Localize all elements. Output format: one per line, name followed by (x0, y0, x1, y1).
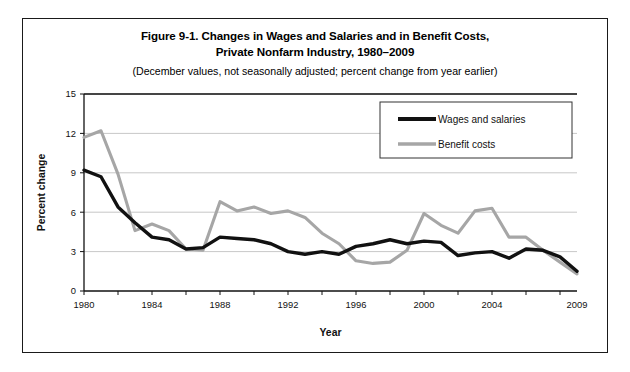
chart-legend: Wages and salariesBenefit costs (380, 102, 572, 158)
figure-frame: Figure 9-1. Changes in Wages and Salarie… (22, 18, 608, 353)
x-tick-label-1988: 1988 (210, 299, 231, 310)
x-tick-label-2000: 2000 (414, 299, 435, 310)
y-tick-label-9: 9 (71, 167, 76, 178)
x-tick-label-1992: 1992 (278, 299, 299, 310)
x-tick-label-2004: 2004 (482, 299, 503, 310)
x-tick-label-1984: 1984 (142, 299, 163, 310)
legend-label-0: Wages and salaries (438, 114, 525, 125)
x-tick-label-1980: 1980 (74, 299, 95, 310)
y-tick-label-3: 3 (71, 246, 76, 257)
x-axis-ticks: 19801984198819921996200020042009 (74, 291, 588, 310)
x-tick-label-1996: 1996 (346, 299, 367, 310)
y-tick-label-12: 12 (66, 128, 76, 139)
series-line-wages-and-salaries (84, 170, 577, 271)
legend-label-1: Benefit costs (438, 139, 495, 150)
x-tick-label-2009: 2009 (567, 299, 588, 310)
y-tick-label-0: 0 (71, 285, 76, 296)
line-chart: 03691215 1980198419881992199620002004200… (23, 19, 609, 354)
y-axis-title: Percent change (36, 154, 47, 232)
y-tick-label-15: 15 (66, 88, 76, 99)
chart-svg: 03691215 1980198419881992199620002004200… (23, 19, 609, 354)
y-axis-ticks: 03691215 (66, 88, 84, 296)
y-tick-label-6: 6 (71, 207, 76, 218)
x-axis-title: Year (320, 327, 342, 338)
